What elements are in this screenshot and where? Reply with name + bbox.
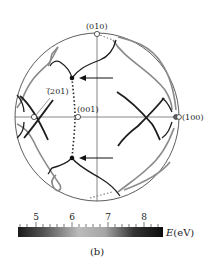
pole-001-marker — [75, 114, 80, 119]
pole-100-label: (100) — [182, 113, 204, 122]
gray-curves — [17, 37, 176, 192]
figure-caption: (b) — [90, 246, 104, 257]
pole-010-marker — [94, 31, 99, 36]
dotted-vertical-line — [72, 78, 75, 158]
colorbar-ticks — [20, 222, 158, 227]
critical-point-upper — [70, 76, 75, 81]
colorbar-gradient — [18, 227, 163, 237]
colorbar-tick-7: 7 — [105, 212, 111, 222]
dark-curves — [17, 40, 172, 196]
colorbar: 5 6 7 8 E(eV) — [18, 212, 194, 238]
critical-point-lower — [70, 156, 75, 161]
dotted-lines — [90, 34, 113, 198]
pole-100-marker — [177, 115, 182, 120]
colorbar-tick-8: 8 — [141, 212, 147, 222]
arrow-lower — [79, 155, 113, 161]
pole-201-label: (̅201) — [46, 87, 68, 96]
arrow-upper — [79, 75, 113, 81]
colorbar-tick-5: 5 — [33, 212, 39, 222]
pole-201-marker — [31, 114, 36, 119]
colorbar-tick-6: 6 — [69, 212, 75, 222]
pole-001-label: (001) — [77, 105, 99, 114]
pole-010-label: (010) — [86, 22, 108, 31]
colorbar-label-unit: (eV) — [173, 227, 194, 238]
stereographic-projection-figure: (010) (001) (̅201) (100) 5 — [0, 0, 213, 266]
colorbar-label: E(eV) — [165, 227, 194, 238]
